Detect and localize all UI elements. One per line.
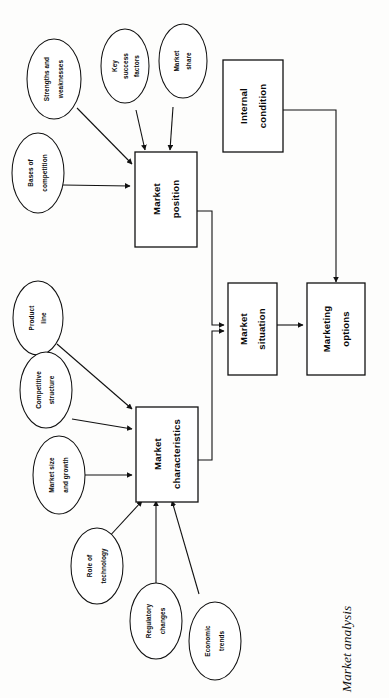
edge-role-of-technology-to-market-characteristics [107, 501, 142, 539]
box-marketing-options-line2: options [340, 311, 351, 347]
ellipse-strengths-line1: Strengths and [43, 57, 51, 101]
ellipse-role-of-technology[interactable]: Role of technology [71, 528, 123, 604]
ellipse-strengths-and-weaknesses[interactable]: Strengths and weaknesses [27, 39, 81, 119]
ellipse-market-share[interactable]: Market share [159, 24, 207, 98]
ellipse-shape [13, 281, 63, 355]
box-shape [135, 152, 197, 247]
box-shape [307, 283, 365, 375]
ellipse-economic-line1: Economic [204, 625, 211, 657]
ellipse-market-size-line1: Market size [48, 457, 55, 493]
box-market-situation-line1: Market [238, 312, 249, 344]
ellipse-bases-line1: Bases of [27, 159, 34, 187]
box-marketing-options[interactable]: Marketing options [307, 283, 365, 375]
ellipse-key-success-factors[interactable]: Key success factors [101, 29, 149, 103]
ellipse-economic-line2: trends [218, 631, 225, 651]
edge-market-share-to-market-position [170, 107, 173, 150]
box-market-characteristics-line2: characteristics [171, 419, 182, 489]
box-marketing-options-line1: Marketing [321, 306, 332, 353]
market-analysis-diagram: Strengths and weaknesses Key success fac… [0, 0, 389, 698]
edge-market-characteristics-to-market-situation [198, 331, 224, 460]
ellipse-product-line[interactable]: Product line [13, 281, 63, 355]
box-market-characteristics-line1: Market [152, 437, 163, 469]
ellipse-regulatory-line1: Regulatory [145, 603, 153, 638]
ellipse-shape [159, 24, 207, 98]
ellipse-market-share-line2: share [185, 52, 192, 70]
ellipse-shape [33, 436, 85, 514]
edge-internal-condition-to-marketing-options [283, 110, 336, 282]
ellipse-role-technology-line1: Role of [86, 554, 93, 577]
box-internal-condition-line1: Internal [238, 88, 249, 124]
ellipse-shape [189, 602, 241, 680]
edge-competitive-structure-to-market-characteristics [72, 419, 132, 429]
edge-key-success-to-market-position [136, 110, 145, 150]
edge-market-position-to-market-situation [197, 211, 224, 325]
box-shape [223, 60, 283, 152]
ellipse-shape [12, 133, 64, 213]
ellipse-regulatory-line2: changes [159, 607, 167, 634]
box-market-position[interactable]: Market position [135, 152, 197, 247]
ellipse-product-line-line1: Product [28, 305, 35, 331]
box-internal-condition-line2: condition [257, 84, 268, 129]
box-internal-condition[interactable]: Internal condition [223, 60, 283, 152]
edge-economic-trends-to-market-characteristics [172, 501, 199, 594]
ellipse-shape [130, 583, 182, 659]
figure-caption: Market analysis [339, 606, 354, 694]
ellipse-competitive-structure[interactable]: Competitive structure [20, 352, 72, 428]
ellipse-competitive-line2: structure [48, 375, 55, 404]
ellipse-bases-of-competition[interactable]: Bases of competition [12, 133, 64, 213]
ellipse-bases-line2: competition [41, 154, 49, 191]
ellipse-regulatory-changes[interactable]: Regulatory changes [130, 583, 182, 659]
ellipse-key-success-line2: success [122, 53, 129, 79]
box-market-situation-line2: situation [256, 308, 267, 349]
ellipse-market-size-line2: and growth [62, 457, 70, 492]
ellipse-shape [71, 528, 123, 604]
box-market-situation[interactable]: Market situation [228, 283, 277, 375]
ellipse-product-line-line2: line [40, 312, 47, 324]
ellipse-strengths-line2: weaknesses [57, 60, 64, 100]
ellipse-market-size-and-growth[interactable]: Market size and growth [33, 436, 85, 514]
ellipse-shape [20, 352, 72, 428]
box-market-position-line2: position [170, 180, 181, 219]
box-shape [228, 283, 277, 375]
ellipse-shape [27, 39, 81, 119]
edge-bases-to-market-position [63, 185, 130, 186]
ellipse-market-share-line1: Market [173, 50, 180, 72]
ellipse-economic-trends[interactable]: Economic trends [189, 602, 241, 680]
box-market-position-line1: Market [151, 182, 162, 214]
ellipse-role-technology-line2: technology [100, 548, 108, 583]
box-market-characteristics[interactable]: Market characteristics [136, 407, 198, 502]
edge-strengths-to-market-position [77, 108, 132, 164]
box-shape [136, 407, 198, 502]
ellipse-competitive-line1: Competitive [35, 371, 43, 409]
ellipse-key-success-line1: Key [111, 60, 119, 72]
figure-page: Strengths and weaknesses Key success fac… [0, 0, 389, 698]
ellipse-key-success-line3: factors [133, 55, 140, 77]
